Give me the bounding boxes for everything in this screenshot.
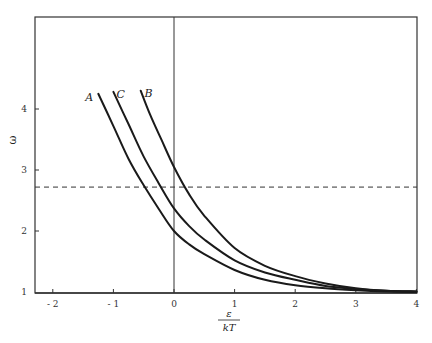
- axis-ticks: - 2- 1012341234: [21, 104, 419, 309]
- y-tick-label: 1: [21, 287, 27, 297]
- y-tick-label: 2: [21, 226, 27, 236]
- curve-label-c: C: [116, 88, 125, 101]
- curve-c: [113, 92, 416, 292]
- x-tick-label: 2: [292, 299, 298, 309]
- axis-labels: ω ε kT: [6, 135, 240, 333]
- curve-label-a: A: [84, 91, 93, 104]
- x-tick-label: - 2: [47, 299, 59, 309]
- y-tick-label: 4: [21, 104, 27, 114]
- reference-lines: [35, 17, 417, 293]
- x-tick-label: - 1: [108, 299, 120, 309]
- x-axis-label-numerator: ε: [226, 308, 231, 319]
- curve-b: [141, 91, 417, 292]
- curve-label-b: B: [144, 87, 153, 100]
- plot-frame: [35, 17, 417, 293]
- x-tick-label: 0: [171, 299, 177, 309]
- x-tick-label: 3: [353, 299, 359, 309]
- x-tick-label: 4: [414, 299, 420, 309]
- y-tick-label: 3: [21, 165, 27, 175]
- x-axis-label-denominator: kT: [223, 322, 237, 333]
- chart: - 2- 1012341234 ACB ω ε kT: [0, 0, 432, 343]
- y-axis-label: ω: [6, 135, 19, 144]
- x-tick-label: 1: [232, 299, 238, 309]
- plot-border: [35, 17, 417, 293]
- curves: [98, 91, 416, 292]
